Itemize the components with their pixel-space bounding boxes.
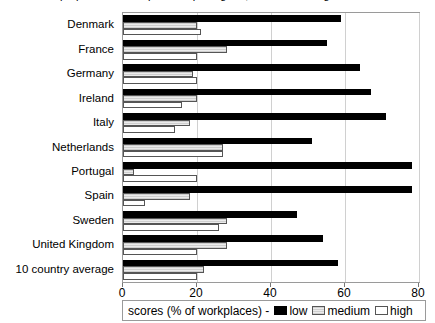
bar-low bbox=[123, 113, 386, 120]
bar-group bbox=[123, 160, 419, 184]
bar-high bbox=[123, 200, 145, 207]
bar-low bbox=[123, 64, 360, 71]
bar-medium bbox=[123, 266, 204, 273]
bar-group bbox=[123, 258, 419, 282]
bar-group bbox=[123, 135, 419, 159]
y-axis-labels: DenmarkFranceGermanyIrelandItalyNetherla… bbox=[0, 12, 118, 283]
bar-high bbox=[123, 53, 197, 60]
bar-group bbox=[123, 13, 419, 37]
bar-medium bbox=[123, 120, 190, 127]
y-axis-label-sweden: Sweden bbox=[72, 214, 114, 226]
y-axis-label-italy: Italy bbox=[93, 116, 114, 128]
bar-group bbox=[123, 233, 419, 257]
bar-low bbox=[123, 260, 338, 267]
bar-low bbox=[123, 89, 371, 96]
y-axis-label-united-kingdom: United Kingdom bbox=[32, 238, 114, 250]
x-tick-label-80: 80 bbox=[411, 286, 424, 300]
bar-low bbox=[123, 186, 412, 193]
bar-low bbox=[123, 235, 323, 242]
bars-container bbox=[123, 13, 419, 282]
bar-low bbox=[123, 40, 327, 47]
x-tick-label-0: 0 bbox=[119, 286, 126, 300]
bar-high bbox=[123, 29, 201, 36]
legend-entry-high: high bbox=[375, 304, 413, 318]
bar-medium bbox=[123, 71, 193, 78]
bar-medium bbox=[123, 218, 227, 225]
legend-label-low: low bbox=[289, 304, 307, 318]
y-axis-label-france: France bbox=[78, 43, 114, 55]
bar-high bbox=[123, 126, 175, 133]
legend-swatch-medium-icon bbox=[312, 306, 325, 315]
chart-plot-area bbox=[122, 12, 420, 283]
bar-group bbox=[123, 184, 419, 208]
chart-legend: scores (% of workplaces) - low medium hi… bbox=[122, 300, 426, 321]
bar-medium bbox=[123, 242, 227, 249]
bar-high bbox=[123, 151, 223, 158]
x-tick-label-20: 20 bbox=[189, 286, 202, 300]
y-axis-label-netherlands: Netherlands bbox=[52, 141, 114, 153]
legend-entry-low: low bbox=[274, 304, 307, 318]
bar-low bbox=[123, 15, 341, 22]
bar-group bbox=[123, 111, 419, 135]
bar-high bbox=[123, 102, 182, 109]
bar-medium bbox=[123, 193, 190, 200]
bar-group bbox=[123, 37, 419, 61]
bar-low bbox=[123, 162, 412, 169]
legend-swatch-high-icon bbox=[375, 306, 388, 315]
bar-medium bbox=[123, 169, 134, 176]
y-axis-label-denmark: Denmark bbox=[67, 18, 114, 30]
bar-high bbox=[123, 175, 197, 182]
bar-group bbox=[123, 62, 419, 86]
bar-high bbox=[123, 249, 197, 256]
x-axis: 020406080 bbox=[122, 283, 420, 299]
legend-entry-medium: medium bbox=[312, 304, 370, 318]
y-axis-label-germany: Germany bbox=[67, 67, 114, 79]
x-tick-label-40: 40 bbox=[263, 286, 276, 300]
x-tick-label-60: 60 bbox=[337, 286, 350, 300]
bar-high bbox=[123, 273, 197, 280]
legend-label-high: high bbox=[390, 304, 413, 318]
y-axis-label-ireland: Ireland bbox=[79, 92, 114, 104]
legend-label-medium: medium bbox=[327, 304, 370, 318]
bar-low bbox=[123, 138, 312, 145]
y-axis-label-spain: Spain bbox=[85, 189, 114, 201]
bar-group bbox=[123, 209, 419, 233]
bar-low bbox=[123, 211, 297, 218]
legend-title: scores (% of workplaces) - bbox=[128, 304, 269, 318]
bar-group bbox=[123, 86, 419, 110]
bar-high bbox=[123, 224, 219, 231]
gridline-80 bbox=[419, 13, 420, 282]
chart-title-cropped: proportion of workplaces reporting low, … bbox=[0, 0, 435, 7]
bar-medium bbox=[123, 22, 197, 29]
bar-medium bbox=[123, 144, 223, 151]
y-axis-label-portugal: Portugal bbox=[71, 165, 114, 177]
legend-swatch-low-icon bbox=[274, 306, 287, 315]
bar-high bbox=[123, 77, 197, 84]
bar-medium bbox=[123, 46, 227, 53]
bar-medium bbox=[123, 95, 197, 102]
chart-title-text: proportion of workplaces reporting low, … bbox=[60, 0, 371, 1]
y-axis-label-10-country-average: 10 country average bbox=[16, 263, 114, 275]
